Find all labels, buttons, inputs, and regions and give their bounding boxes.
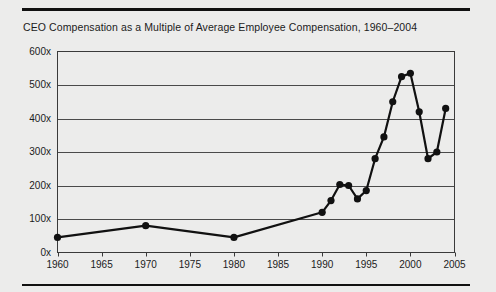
x-tick-label-1995: 1995	[344, 259, 388, 270]
x-tick-label-1970: 1970	[124, 259, 168, 270]
x-tick-label-1965: 1965	[80, 259, 124, 270]
x-tick-label-2005: 2005	[433, 259, 477, 270]
x-tick-label-2000: 2000	[388, 259, 432, 270]
data-point	[142, 222, 149, 229]
y-tick-label-400: 400x	[9, 113, 51, 124]
data-point	[372, 155, 379, 162]
data-point	[54, 234, 61, 241]
y-tick-label-300: 300x	[9, 146, 51, 157]
data-point	[407, 70, 414, 77]
x-tick-label-1980: 1980	[212, 259, 256, 270]
x-tick-label-1985: 1985	[256, 259, 300, 270]
data-point	[354, 195, 361, 202]
data-point	[336, 181, 343, 188]
data-point	[230, 234, 237, 241]
x-axis-ticks-group	[59, 253, 456, 257]
gridlines-group	[58, 86, 455, 220]
data-point	[424, 155, 431, 162]
data-point	[319, 209, 326, 216]
data-point	[433, 148, 440, 155]
data-point	[442, 105, 449, 112]
data-point	[416, 108, 423, 115]
bottom-divider-rule	[22, 284, 470, 286]
data-point	[398, 73, 405, 80]
x-tick-label-1975: 1975	[168, 259, 212, 270]
data-point-markers-group	[54, 70, 449, 241]
x-tick-label-1960: 1960	[36, 259, 80, 270]
y-tick-label-200: 200x	[9, 180, 51, 191]
x-tick-label-1990: 1990	[300, 259, 344, 270]
y-tick-label-600: 600x	[9, 46, 51, 57]
data-point	[380, 133, 387, 140]
line-chart-svg	[0, 0, 496, 292]
figure-container: CEO Compensation as a Multiple of Averag…	[0, 0, 496, 292]
y-tick-label-500: 500x	[9, 79, 51, 90]
data-point	[345, 182, 352, 189]
plot-area: 0x100x200x300x400x500x600x 1960196519701…	[0, 0, 496, 292]
data-point	[389, 98, 396, 105]
y-tick-label-0: 0x	[9, 247, 51, 258]
data-point	[363, 187, 370, 194]
y-tick-label-100: 100x	[9, 213, 51, 224]
data-point	[327, 197, 334, 204]
data-line	[58, 73, 446, 237]
